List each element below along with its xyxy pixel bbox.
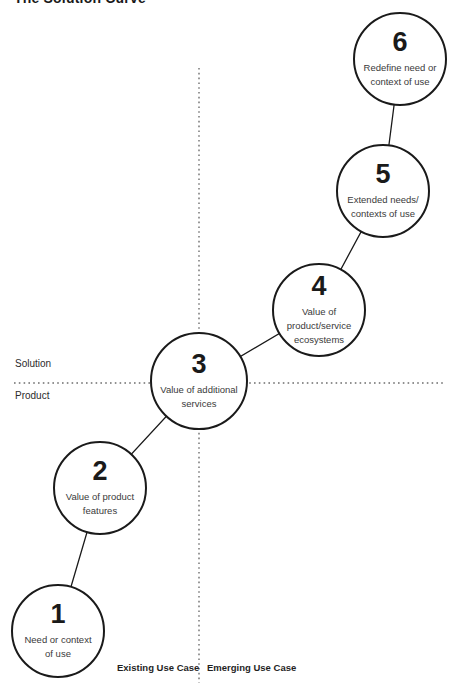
step-circle-6: 6 Redefine need or context of use xyxy=(353,12,447,106)
step-label-line: Value of product xyxy=(66,490,134,504)
emerging-use-case-label: Emerging Use Case xyxy=(207,662,296,674)
step-label: Need or context of use xyxy=(24,633,91,661)
step-label: Value of product features xyxy=(66,490,134,518)
step-label: Extended needs/ contexts of use xyxy=(347,193,418,221)
step-number: 6 xyxy=(392,29,407,56)
step-label-line: Value of xyxy=(287,305,351,319)
step-number: 1 xyxy=(50,601,65,628)
existing-use-case-label: Existing Use Case xyxy=(117,662,199,674)
step-number: 3 xyxy=(191,351,206,378)
step-number: 2 xyxy=(92,458,107,485)
step-label-line: of use xyxy=(24,647,91,661)
step-label-line: product/service xyxy=(287,319,351,333)
step-circle-1: 1 Need or context of use xyxy=(11,584,105,678)
step-label-line: features xyxy=(66,504,134,518)
step-circle-2: 2 Value of product features xyxy=(53,441,147,535)
step-circle-3: 3 Value of additional services xyxy=(150,332,248,430)
step-label-line: Extended needs/ xyxy=(347,193,418,207)
step-label-line: Redefine need or xyxy=(364,61,437,75)
step-label-line: contexts of use xyxy=(347,207,418,221)
solution-curve-diagram: The Solution Curve Solution Product Exis… xyxy=(0,0,458,689)
step-label-line: Value of additional xyxy=(160,383,237,397)
step-number: 5 xyxy=(375,161,390,188)
step-circle-5: 5 Extended needs/ contexts of use xyxy=(336,144,430,238)
step-circle-4: 4 Value of product/service ecosystems xyxy=(272,263,366,357)
step-number: 4 xyxy=(311,273,326,300)
step-label-line: context of use xyxy=(364,75,437,89)
product-axis-label: Product xyxy=(15,390,49,402)
step-label-line: ecosystems xyxy=(287,333,351,347)
step-label-line: Need or context xyxy=(24,633,91,647)
solution-axis-label: Solution xyxy=(15,358,51,370)
step-label-line: services xyxy=(160,397,237,411)
step-label: Value of product/service ecosystems xyxy=(287,305,351,346)
step-label: Value of additional services xyxy=(160,383,237,411)
step-label: Redefine need or context of use xyxy=(364,61,437,89)
page-title: The Solution Curve xyxy=(14,0,146,6)
